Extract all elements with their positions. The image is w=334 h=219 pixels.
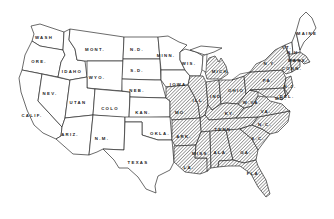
state-label-sd: S.D. [130,68,144,73]
state-label-wyo: WYO. [89,75,106,80]
state-label-ark: ARK. [176,134,192,139]
state-label-wis: WIS. [182,61,197,66]
state-kan [129,97,170,118]
state-label-ny: N.Y. [263,61,276,66]
state-label-iowa: IOWA [170,82,187,87]
state-label-minn: MINN. [157,53,176,58]
map-canvas [0,0,334,219]
state-label-calif: CALIF. [21,113,42,118]
state-fla [218,160,270,197]
state-mont [69,29,124,61]
state-label-mass: MASS. [288,58,308,63]
state-label-nj: N.J. [283,84,296,89]
state-label-texas: TEXAS [128,160,149,165]
state-label-sc: S.C. [251,136,265,141]
us-map: WASHORE.CALIF.NEV.IDAHOMONT.WYO.UTANCOLO… [0,0,334,219]
state-label-ind: IND. [210,94,224,99]
state-label-mich: MICH. [212,69,231,74]
state-label-ala: ALA. [213,150,228,155]
state-label-ill: ILL. [193,98,206,103]
state-label-nc: N.C. [258,122,272,127]
state-label-nev: NEV. [43,91,58,96]
state-label-maine: MAINE [297,31,317,36]
state-label-pa: PA. [263,78,274,83]
state-label-nh: N.H. [287,50,301,55]
state-label-wva: W.VA. [243,100,261,105]
state-label-ga: GA. [240,150,252,155]
state-label-tenn: TENN. [214,127,233,132]
state-label-ky: KY. [225,111,236,116]
state-label-ariz: ARIZ. [61,132,79,137]
state-label-conn: CONN. [282,66,302,71]
state-label-mo: MO. [175,110,187,115]
state-label-va: VA. [261,109,272,114]
state-label-mont: MONT. [85,47,105,52]
state-label-la: LA. [184,165,195,170]
state-label-wash: WASH [35,35,53,40]
state-label-utan: UTAN [70,100,87,105]
state-label-nd: N.D. [130,47,144,52]
state-label-nm: N.M. [95,136,109,141]
state-label-idaho: IDAHO [62,69,82,74]
state-label-okla: OKLA. [150,131,170,136]
state-label-fla: FLA. [247,171,262,176]
state-ark [172,118,201,146]
state-label-colo: COLO [101,106,119,111]
state-label-del: DEL. [280,94,295,99]
state-label-ohio: OHIO [228,88,244,93]
state-label-ore: ORE. [31,59,47,64]
state-label-kan: KAN. [135,110,151,115]
state-label-miss: MISS. [192,151,210,156]
state-colo [93,89,130,118]
lake-michigan [202,54,207,72]
state-label-neb: NEB. [129,88,144,93]
state-mich [204,56,228,79]
